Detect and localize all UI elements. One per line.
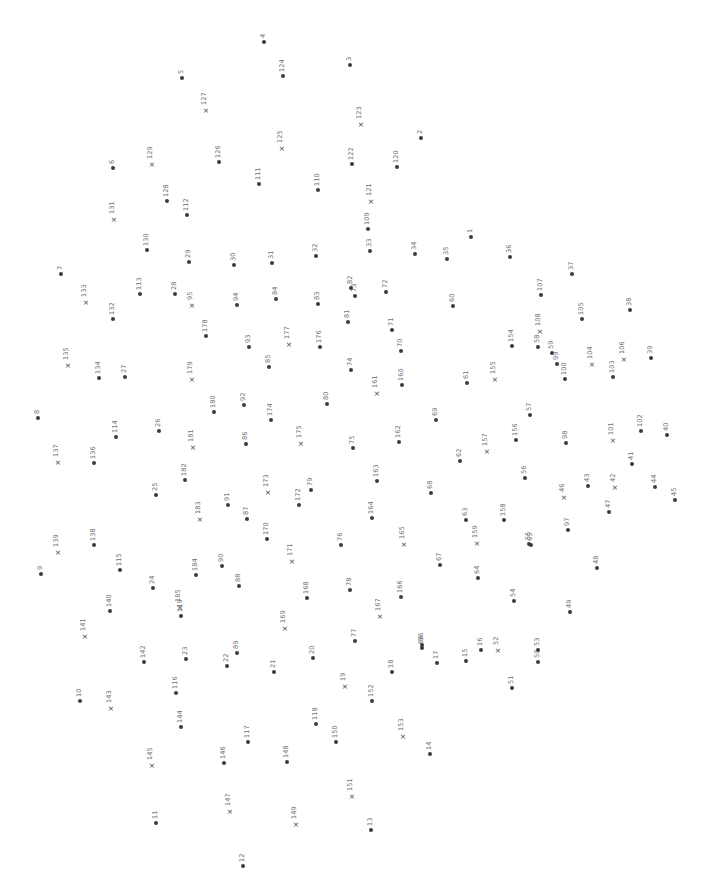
dot-marker-icon [237,584,241,588]
point-label: 117 [244,725,251,738]
point-label: 68 [427,480,434,489]
cross-marker-icon: × [108,705,115,712]
point-label: 29 [185,249,192,258]
point-label: 94 [233,292,240,301]
point-label: 91 [224,492,231,501]
cross-marker-icon: × [537,328,544,335]
point-label: 83 [314,291,321,300]
point-label: 142 [140,645,147,658]
cross-marker-icon: × [374,390,381,397]
dot-marker-icon [247,345,251,349]
dot-marker-icon [257,182,261,186]
point-label: 33 [366,238,373,247]
dot-marker-icon [157,429,161,433]
point-label: 12 [239,853,246,862]
dot-marker-icon [368,249,372,253]
point-label: 172 [295,488,302,501]
point-label: 107 [537,278,544,291]
point-label: 22 [223,653,230,662]
point-label: 51 [508,675,515,684]
cross-marker-icon: × [349,793,356,800]
dot-marker-icon [580,317,584,321]
dot-marker-icon [649,356,653,360]
dot-marker-icon [325,402,329,406]
point-label: 123 [356,106,363,119]
dot-marker-icon [465,381,469,385]
point-label: 82 [347,275,354,284]
point-label: 10 [76,688,83,697]
dot-marker-icon [351,446,355,450]
point-label: 9 [37,566,44,570]
point-label: 148 [283,745,290,758]
point-label: 160 [398,368,405,381]
cross-marker-icon: × [474,540,481,547]
dot-marker-icon [568,610,572,614]
dot-marker-icon [180,76,184,80]
dot-marker-icon [262,40,266,44]
point-label: 173 [263,474,270,487]
point-label: 111 [255,167,262,180]
point-label: 23 [182,646,189,655]
dot-marker-icon [305,596,309,600]
dot-marker-icon [217,160,221,164]
point-label: 128 [163,184,170,197]
point-label: 104 [587,346,594,359]
dot-marker-icon [154,493,158,497]
dot-marker-icon [539,293,543,297]
dot-marker-icon [151,586,155,590]
point-label: 147 [225,793,232,806]
point-label: 171 [287,543,294,556]
dot-marker-icon [311,656,315,660]
dot-marker-icon [92,461,96,465]
point-label: 116 [172,676,179,689]
dot-marker-icon [123,375,127,379]
point-label: 59 [548,340,555,349]
point-label: 14 [426,741,433,750]
cross-marker-icon: × [484,448,491,455]
dot-marker-icon [173,292,177,296]
dot-marker-icon [220,564,224,568]
point-label: 175 [296,425,303,438]
dot-marker-icon [185,213,189,217]
cross-marker-icon: × [282,625,289,632]
cross-marker-icon: × [377,613,384,620]
dot-marker-icon [464,518,468,522]
dot-marker-icon [142,660,146,664]
cross-marker-icon: × [197,516,204,523]
point-label: 125 [277,130,284,143]
dot-marker-icon [285,760,289,764]
dot-marker-icon [346,320,350,324]
cross-marker-icon: × [561,494,568,501]
cross-marker-icon: × [279,145,286,152]
dot-marker-icon [628,308,632,312]
point-label: 54 [510,588,517,597]
point-label: 143 [106,690,113,703]
point-label: 63 [462,507,469,516]
point-label: 152 [368,684,375,697]
point-label: 32 [312,243,319,252]
cross-marker-icon: × [589,361,596,368]
point-label: 37 [568,261,575,270]
point-label: 115 [116,553,123,566]
dot-marker-icon [350,162,354,166]
dot-marker-icon [413,252,417,256]
point-label: 67 [436,552,443,561]
dot-marker-icon [434,418,438,422]
point-label: 78 [346,577,353,586]
dot-marker-icon [514,438,518,442]
point-label: 99 [553,351,560,360]
dot-marker-icon [353,639,357,643]
point-label: 52 [493,636,500,645]
point-label: 136 [90,446,97,459]
point-label: 162 [395,425,402,438]
cross-marker-icon: × [190,444,197,451]
point-label: 139 [53,534,60,547]
point-label: 120 [393,150,400,163]
point-label: 184 [192,558,199,571]
dot-marker-icon [145,248,149,252]
dot-marker-icon [523,476,527,480]
dot-marker-icon [267,365,271,369]
point-label: 65 [527,532,534,541]
point-label: 146 [220,746,227,759]
point-label: 167 [375,598,382,611]
